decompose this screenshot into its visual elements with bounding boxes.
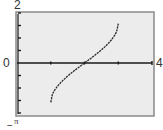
y-min-label-pi: π bbox=[14, 116, 19, 127]
x-origin-label: 0 bbox=[3, 58, 10, 69]
x-max-label: 4 bbox=[156, 58, 163, 69]
y-max-label: 2 bbox=[14, 0, 21, 11]
y-min-sign: − bbox=[7, 120, 13, 130]
chart bbox=[0, 0, 163, 130]
